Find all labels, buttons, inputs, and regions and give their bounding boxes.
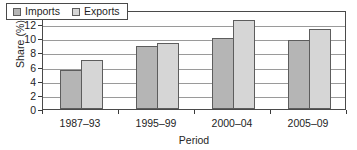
bar-imports [212,38,234,109]
chart-legend: ImportsExports [6,3,128,20]
bar-chart-figure: Share (%) 02468101214 ImportsExports 198… [0,0,357,150]
y-axis-tick-labels: 02468101214 [12,5,36,117]
y-axis-tick-label: 12 [12,20,36,30]
x-axis-tick-mark [346,110,347,114]
bar-group [43,12,119,109]
legend-entry-imports: Imports [13,6,60,17]
x-axis-tick-mark [270,110,271,114]
bar-group [195,12,271,109]
bar-exports [233,20,255,109]
bar-imports [288,40,310,109]
y-axis-tick-label: 6 [12,63,36,73]
x-axis-tick-mark [42,110,43,114]
x-axis-tick-label: 2005–09 [270,118,346,129]
legend-swatch-icon [13,8,21,16]
bar-exports [157,43,179,109]
y-axis-tick-label: 8 [12,48,36,58]
x-axis-tick-label: 1987–93 [42,118,118,129]
bar-series-container [43,12,345,109]
legend-label: Imports [25,6,60,17]
legend-label: Exports [84,6,120,17]
bar-exports [81,60,103,109]
plot-area [42,11,346,110]
y-axis-tick-label: 2 [12,91,36,101]
x-axis-label: Period [42,134,346,146]
x-axis-tick-mark [118,110,119,114]
y-axis-tick-label: 10 [12,34,36,44]
legend-entry-exports: Exports [72,6,120,17]
bar-group [119,12,195,109]
y-axis-tick-label: 4 [12,77,36,87]
bar-imports [60,70,82,109]
x-axis-tick-label: 1995–99 [118,118,194,129]
bar-exports [309,29,331,109]
legend-swatch-icon [72,8,80,16]
y-axis-tick-label: 0 [12,105,36,115]
bar-imports [136,46,158,109]
x-axis-tick-label: 2000–04 [194,118,270,129]
x-axis-tick-mark [194,110,195,114]
bar-group [271,12,346,109]
